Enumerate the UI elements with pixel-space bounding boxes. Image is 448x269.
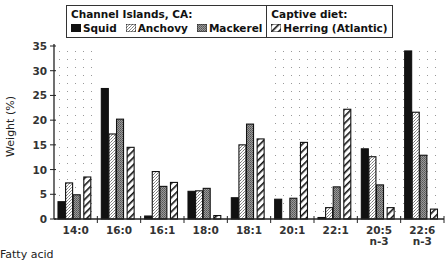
bar-chart-plot: 0510152025303514:016:016:118:018:120:122… xyxy=(0,0,448,269)
x-axis-label: Fatty acid xyxy=(0,248,54,261)
bar-herring xyxy=(300,142,307,219)
x-tick-label: 14:0 xyxy=(63,224,89,236)
y-tick-label: 25 xyxy=(32,89,47,101)
y-tick-label: 35 xyxy=(32,40,47,52)
legend-item-herring: Herring (Atlantic) xyxy=(271,21,387,35)
bar-squid xyxy=(275,199,282,219)
bar-squid xyxy=(405,51,412,219)
legend-item-anchovy: Anchovy xyxy=(126,21,188,35)
legend-group-title: Captive diet: xyxy=(271,7,387,21)
legend-label: Herring (Atlantic) xyxy=(283,21,387,35)
bar-herring xyxy=(257,139,264,219)
bar-mackerel xyxy=(420,155,427,219)
y-tick-label: 0 xyxy=(40,213,47,225)
x-tick-label: n-3 xyxy=(369,235,388,247)
mackerel-swatch-icon xyxy=(197,24,207,32)
bar-mackerel xyxy=(73,195,80,219)
x-tick-label: 18:0 xyxy=(193,224,219,236)
legend-label: Anchovy xyxy=(138,21,188,35)
bar-mackerel xyxy=(290,198,297,219)
bar-anchovy xyxy=(412,112,419,219)
legend-item-squid: Squid xyxy=(71,21,117,35)
bar-anchovy xyxy=(66,183,73,219)
bar-anchovy xyxy=(326,208,333,219)
bar-herring xyxy=(127,147,134,219)
legend-item-mackerel: Mackerel xyxy=(197,21,262,35)
legend-label: Mackerel xyxy=(209,21,262,35)
bar-squid xyxy=(231,198,238,219)
bar-anchovy xyxy=(196,191,203,219)
bar-squid xyxy=(58,202,65,219)
x-tick-label: 18:1 xyxy=(236,224,262,236)
bar-herring xyxy=(344,109,351,219)
bar-squid xyxy=(101,89,108,219)
bar-mackerel xyxy=(377,185,384,219)
bar-anchovy xyxy=(109,134,116,219)
bar-herring xyxy=(170,182,177,219)
bar-squid xyxy=(188,191,195,219)
y-tick-label: 15 xyxy=(32,139,47,151)
legend: Channel Islands, CA: Squid Anchovy Macke… xyxy=(66,5,393,38)
y-tick-label: 20 xyxy=(32,114,47,126)
y-tick-label: 10 xyxy=(32,164,47,176)
bar-anchovy xyxy=(239,145,246,219)
bar-herring xyxy=(84,177,91,219)
bar-anchovy xyxy=(369,157,376,219)
x-tick-label: 22:1 xyxy=(323,224,349,236)
bar-herring xyxy=(387,208,394,219)
x-tick-label: 16:0 xyxy=(106,224,132,236)
squid-swatch-icon xyxy=(71,24,81,32)
bar-mackerel xyxy=(203,188,210,219)
y-axis-label: Weight (%) xyxy=(4,96,17,157)
bar-squid xyxy=(361,149,368,219)
x-tick-label: 16:1 xyxy=(149,224,175,236)
bar-mackerel xyxy=(247,124,254,219)
anchovy-swatch-icon xyxy=(126,24,136,32)
bar-mackerel xyxy=(117,119,124,219)
legend-group-title: Channel Islands, CA: xyxy=(71,7,262,21)
bar-mackerel xyxy=(333,187,340,219)
legend-group-captive-diet: Captive diet: Herring (Atlantic) xyxy=(266,6,391,37)
legend-label: Squid xyxy=(83,21,117,35)
bar-anchovy xyxy=(152,172,159,219)
x-tick-label: 20:1 xyxy=(279,224,305,236)
chart: 0510152025303514:016:016:118:018:120:122… xyxy=(0,0,448,269)
y-tick-label: 5 xyxy=(40,188,47,200)
bar-mackerel xyxy=(160,186,167,219)
bar-herring xyxy=(430,209,437,219)
legend-group-channel-islands: Channel Islands, CA: Squid Anchovy Macke… xyxy=(67,6,266,37)
herring-swatch-icon xyxy=(271,24,281,32)
y-tick-label: 30 xyxy=(32,65,47,77)
x-tick-label: n-3 xyxy=(413,235,432,247)
